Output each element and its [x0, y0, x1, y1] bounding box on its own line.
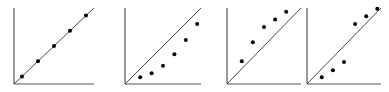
data-point — [320, 75, 324, 79]
data-point — [331, 68, 335, 72]
data-point — [150, 71, 154, 75]
reference-line — [307, 8, 381, 84]
data-point — [172, 52, 176, 56]
data-point — [240, 59, 244, 63]
panel-3 — [227, 8, 301, 84]
data-point — [36, 59, 40, 63]
data-point — [52, 44, 56, 48]
chart-canvas — [0, 0, 389, 92]
data-point — [251, 40, 255, 44]
reference-line — [125, 8, 201, 84]
reference-line — [227, 8, 301, 84]
data-point — [353, 22, 357, 26]
data-point — [284, 10, 288, 14]
panel-2 — [125, 8, 201, 84]
data-point — [84, 14, 88, 18]
data-point — [161, 64, 165, 68]
panel-4 — [307, 7, 381, 84]
data-point — [184, 38, 188, 42]
data-point — [364, 14, 368, 18]
data-point — [342, 60, 346, 64]
data-point — [68, 29, 72, 33]
data-point — [20, 74, 24, 78]
data-point — [273, 17, 277, 21]
panel-1 — [14, 8, 94, 84]
data-point — [195, 22, 199, 26]
qq-plot-panels — [0, 0, 389, 92]
data-point — [375, 7, 379, 11]
data-point — [138, 75, 142, 79]
data-point — [262, 25, 266, 29]
